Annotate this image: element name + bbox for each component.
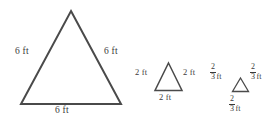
medium-triangle-label-right: 2 ft: [183, 68, 195, 77]
fraction-numerator: 2: [210, 63, 216, 72]
large-triangle-label-bottom: 6 ft: [55, 106, 69, 116]
unit-label: ft: [256, 73, 261, 82]
small-triangle-label-bottom: 2 3 ft: [229, 95, 240, 113]
large-triangle-label-left: 6 ft: [15, 47, 29, 57]
fraction-numerator: 2: [229, 95, 235, 104]
geometry-figure: 6 ft 6 ft 6 ft 2 ft 2 ft 2 ft 2 3 ft 2 3…: [0, 0, 273, 122]
small-triangle-shape: [231, 76, 250, 94]
unit-label: ft: [235, 105, 240, 114]
small-triangle-label-right: 2 3 ft: [250, 63, 261, 81]
small-triangle-label-left: 2 3 ft: [210, 63, 221, 81]
large-triangle-label-right: 6 ft: [104, 47, 118, 57]
fraction-numerator: 2: [250, 63, 256, 72]
medium-triangle-label-left: 2 ft: [135, 68, 147, 77]
large-triangle-shape: [18, 8, 124, 107]
medium-triangle-label-bottom: 2 ft: [159, 93, 171, 102]
unit-label: ft: [216, 73, 221, 82]
medium-triangle-shape: [153, 61, 184, 93]
